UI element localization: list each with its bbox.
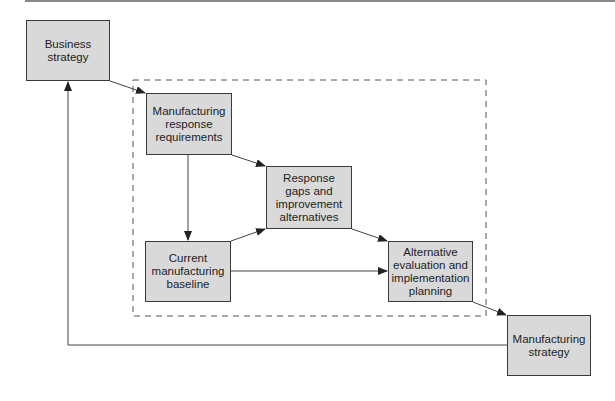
node-current-baseline: Current manufacturing baseline <box>145 241 231 302</box>
arrow-business-to-requirements <box>110 81 145 93</box>
node-response-gaps: Response gaps and improvement alternativ… <box>266 166 352 229</box>
node-label: Business strategy <box>45 38 92 64</box>
node-label: Current manufacturing baseline <box>152 252 225 291</box>
node-label: Alternative evaluation and implementatio… <box>392 246 470 298</box>
node-manufacturing-strategy: Manufacturing strategy <box>507 315 591 376</box>
node-manufacturing-response-requirements: Manufacturing response requirements <box>146 93 232 155</box>
arrow-gaps-to-alternative <box>352 229 387 241</box>
node-label: Manufacturing strategy <box>513 333 586 359</box>
node-alternative-evaluation: Alternative evaluation and implementatio… <box>388 241 473 302</box>
node-label: Manufacturing response requirements <box>153 105 226 144</box>
arrow-requirements-to-gaps <box>232 155 265 166</box>
node-business-strategy: Business strategy <box>26 20 110 81</box>
arrow-alternative-to-strategy <box>473 302 506 315</box>
arrow-baseline-to-gaps <box>231 229 265 241</box>
node-label: Response gaps and improvement alternativ… <box>276 172 342 224</box>
